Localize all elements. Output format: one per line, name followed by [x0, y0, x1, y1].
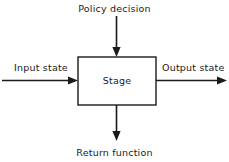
input-state-arrow-head [68, 76, 78, 84]
policy-decision-arrow [112, 16, 120, 57]
diagram-canvas: Policy decision Input state Output state… [0, 0, 229, 162]
return-function-arrow-head [112, 131, 120, 141]
policy-decision-label: Policy decision [0, 3, 229, 14]
output-state-arrow-head [217, 76, 227, 84]
stage-box-label: Stage [78, 75, 156, 86]
return-function-arrow [112, 105, 120, 141]
input-state-arrow [2, 76, 78, 84]
return-function-label: Return function [0, 147, 229, 158]
policy-decision-arrow-head [112, 47, 120, 57]
output-state-arrow [156, 76, 227, 84]
input-state-label: Input state [14, 62, 68, 73]
output-state-label: Output state [162, 62, 225, 73]
